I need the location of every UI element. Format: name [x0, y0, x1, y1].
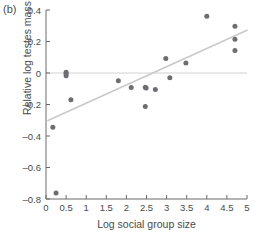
x-tick-label: 3 — [164, 202, 169, 213]
x-tick-label: 0.5 — [59, 202, 72, 213]
data-point — [68, 97, 73, 102]
x-tick-label: 5 — [244, 202, 249, 213]
x-tick-label: 1.5 — [100, 202, 113, 213]
data-point — [183, 61, 188, 66]
y-tick-label: 0.2 — [28, 36, 41, 47]
x-tick-label: 2 — [124, 202, 129, 213]
scatter-plot-svg: 00.511.522.533.544.55 0.40.20–0.2–0.4–0.… — [0, 0, 254, 237]
x-tick-label: 4.5 — [220, 202, 233, 213]
x-tick-label: 1 — [84, 202, 89, 213]
data-point — [204, 14, 209, 19]
y-tick-label: –0.8 — [23, 194, 42, 205]
data-point — [50, 125, 55, 130]
data-point — [232, 37, 237, 42]
data-point — [153, 87, 158, 92]
data-point — [232, 48, 237, 53]
data-point — [116, 78, 121, 83]
data-point — [232, 24, 237, 29]
x-tick-label: 3.5 — [180, 202, 193, 213]
x-tick-label: 4 — [204, 202, 209, 213]
data-point — [144, 85, 149, 90]
x-tick-group: 00.511.522.533.544.55 — [43, 195, 249, 213]
data-point-group — [50, 14, 237, 196]
data-point — [167, 75, 172, 80]
data-point — [143, 104, 148, 109]
x-tick-label: 0 — [43, 202, 48, 213]
y-tick-label: –0.4 — [23, 131, 42, 142]
x-tick-label: 2.5 — [140, 202, 153, 213]
data-point — [129, 85, 134, 90]
y-tick-label: –0.6 — [23, 162, 42, 173]
y-tick-label: 0.4 — [28, 5, 41, 16]
data-point — [54, 191, 59, 196]
data-point — [163, 56, 168, 61]
data-point — [64, 73, 69, 78]
y-tick-label: 0 — [36, 68, 41, 79]
chart-figure: (b) Relative log testes mass Log social … — [0, 0, 254, 237]
y-tick-label: –0.2 — [23, 99, 42, 110]
